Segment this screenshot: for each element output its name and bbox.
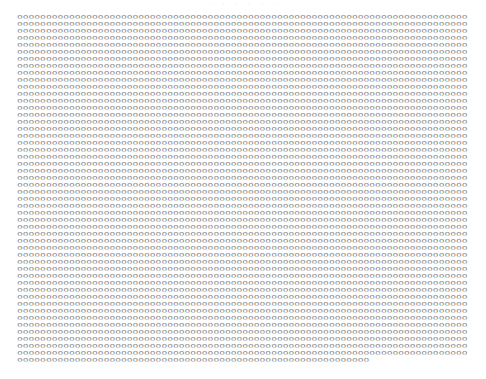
grid-row: oooooooooooooooooooooooooooooooooooooooo…	[17, 223, 468, 229]
grid-row: oooooooooooooooooooooooooooooooooooooooo…	[17, 27, 468, 33]
grid-row: oooooooooooooooooooooooooooooooooooooooo…	[17, 202, 468, 208]
character-grid: oooooooooooooooooooooooooooooooooooooooo…	[17, 13, 468, 363]
grid-row: oooooooooooooooooooooooooooooooooooooooo…	[17, 314, 468, 320]
grid-row: oooooooooooooooooooooooooooooooooooooooo…	[17, 307, 468, 313]
grid-row: oooooooooooooooooooooooooooooooooooooooo…	[17, 76, 468, 82]
grid-row: oooooooooooooooooooooooooooooooooooooooo…	[17, 286, 468, 292]
grid-row: oooooooooooooooooooooooooooooooooooooooo…	[17, 342, 468, 348]
grid-row: oooooooooooooooooooooooooooooooooooooooo…	[17, 153, 468, 159]
grid-row: oooooooooooooooooooooooooooooooooooooooo…	[17, 321, 468, 327]
grid-row: oooooooooooooooooooooooooooooooooooooooo…	[17, 20, 468, 26]
grid-row: oooooooooooooooooooooooooooooooooooooooo…	[17, 111, 468, 117]
grid-row: oooooooooooooooooooooooooooooooooooooooo…	[17, 195, 468, 201]
grid-row: oooooooooooooooooooooooooooooooooooooooo…	[17, 335, 468, 341]
grid-row: oooooooooooooooooooooooooooooooooooooooo…	[17, 90, 468, 96]
grid-row: oooooooooooooooooooooooooooooooooooooooo…	[17, 83, 468, 89]
grid-row: oooooooooooooooooooooooooooooooooooooooo…	[17, 265, 468, 271]
grid-row: oooooooooooooooooooooooooooooooooooooooo…	[17, 300, 468, 306]
grid-row: oooooooooooooooooooooooooooooooooooooooo…	[17, 97, 468, 103]
grid-row: oooooooooooooooooooooooooooooooooooooooo…	[17, 293, 468, 299]
grid-row: oooooooooooooooooooooooooooooooooooooooo…	[17, 244, 468, 250]
grid-row: oooooooooooooooooooooooooooooooooooooooo…	[17, 174, 468, 180]
grid-row: oooooooooooooooooooooooooooooooooooooooo…	[17, 167, 468, 173]
grid-row: oooooooooooooooooooooooooooooooooooooooo…	[17, 62, 468, 68]
grid-row: oooooooooooooooooooooooooooooooooooooooo…	[17, 209, 468, 215]
grid-row: oooooooooooooooooooooooooooooooooooooooo…	[17, 139, 468, 145]
grid-row: oooooooooooooooooooooooooooooooooooooooo…	[17, 13, 468, 19]
grid-row: oooooooooooooooooooooooooooooooooooooooo…	[17, 132, 468, 138]
faint-title: · · · · · ·	[0, 0, 486, 12]
grid-row: oooooooooooooooooooooooooooooooooooooooo…	[17, 181, 468, 187]
grid-row: oooooooooooooooooooooooooooooooooooooooo…	[17, 356, 468, 362]
grid-row: oooooooooooooooooooooooooooooooooooooooo…	[17, 160, 468, 166]
grid-row: oooooooooooooooooooooooooooooooooooooooo…	[17, 230, 468, 236]
grid-row: oooooooooooooooooooooooooooooooooooooooo…	[17, 349, 468, 355]
grid-row: oooooooooooooooooooooooooooooooooooooooo…	[17, 104, 468, 110]
grid-row: oooooooooooooooooooooooooooooooooooooooo…	[17, 237, 468, 243]
grid-row: oooooooooooooooooooooooooooooooooooooooo…	[17, 328, 468, 334]
grid-row: oooooooooooooooooooooooooooooooooooooooo…	[17, 118, 468, 124]
grid-row: oooooooooooooooooooooooooooooooooooooooo…	[17, 251, 468, 257]
grid-row: oooooooooooooooooooooooooooooooooooooooo…	[17, 216, 468, 222]
grid-row: oooooooooooooooooooooooooooooooooooooooo…	[17, 48, 468, 54]
grid-row: oooooooooooooooooooooooooooooooooooooooo…	[17, 258, 468, 264]
grid-row: oooooooooooooooooooooooooooooooooooooooo…	[17, 125, 468, 131]
grid-row: oooooooooooooooooooooooooooooooooooooooo…	[17, 146, 468, 152]
grid-row: oooooooooooooooooooooooooooooooooooooooo…	[17, 272, 468, 278]
grid-row: oooooooooooooooooooooooooooooooooooooooo…	[17, 41, 468, 47]
grid-row: oooooooooooooooooooooooooooooooooooooooo…	[17, 69, 468, 75]
grid-row: oooooooooooooooooooooooooooooooooooooooo…	[17, 188, 468, 194]
grid-row: oooooooooooooooooooooooooooooooooooooooo…	[17, 55, 468, 61]
grid-row: oooooooooooooooooooooooooooooooooooooooo…	[17, 34, 468, 40]
grid-row: oooooooooooooooooooooooooooooooooooooooo…	[17, 279, 468, 285]
